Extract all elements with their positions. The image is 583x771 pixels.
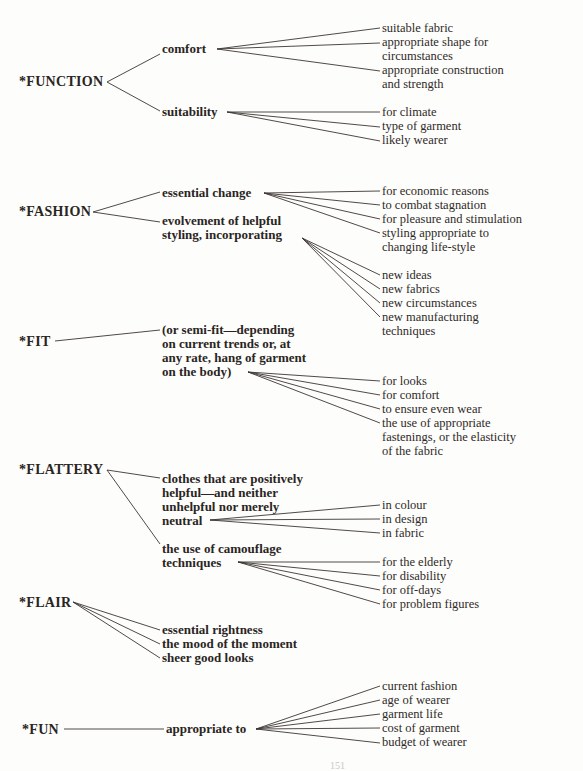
node-fun: *FUN	[22, 722, 59, 738]
leaf-current-fashion: current fashion	[382, 679, 457, 693]
leaf-problem-figures: for problem figures	[382, 597, 479, 611]
node-fit: *FIT	[19, 334, 51, 350]
leaf-disability: for disability	[382, 569, 446, 583]
node-flattery: *FLATTERY	[19, 462, 103, 478]
node-semi-fit-line3: any rate, hang of garment	[162, 351, 306, 365]
node-essential-change: essential change	[162, 186, 251, 200]
node-suitability: suitability	[162, 105, 218, 119]
leaf-even-wear: to ensure even wear	[382, 402, 482, 416]
leaf-suitable-fabric: suitable fabric	[382, 21, 453, 35]
node-camouflage-cont: techniques	[162, 556, 221, 570]
leaf-likely-wearer: likely wearer	[382, 133, 448, 147]
leaf-cost-of-garment: cost of garment	[382, 721, 460, 735]
leaf-fastenings-cont2: of the fabric	[382, 444, 443, 458]
node-evolvement: evolvement of helpful	[162, 214, 281, 228]
leaf-combat-stagnation: to combat stagnation	[382, 198, 486, 212]
leaf-in-fabric: in fabric	[382, 526, 424, 540]
node-clothes-helpful: clothes that are positively	[162, 472, 303, 486]
node-clothes-helpful-line2: helpful—and neither	[162, 486, 278, 500]
node-semi-fit-line2: on current trends or, at	[162, 337, 291, 351]
leaf-appropriate-shape: appropriate shape for	[382, 35, 488, 49]
leaf-garment-life: garment life	[382, 707, 443, 721]
leaf-appropriate-construction: appropriate construction	[382, 63, 504, 77]
node-comfort: comfort	[162, 42, 206, 56]
node-mood-of-moment: the mood of the moment	[162, 637, 297, 651]
leaf-off-days: for off-days	[382, 583, 441, 597]
node-essential-rightness: essential rightness	[162, 623, 263, 637]
node-appropriate-to: appropriate to	[166, 722, 246, 736]
node-camouflage: the use of camouflage	[162, 542, 282, 556]
leaf-new-circumstances: new circumstances	[382, 296, 477, 310]
leaf-appropriate-shape-cont: circumstances	[382, 49, 453, 63]
leaf-styling-appropriate-cont: changing life-style	[382, 240, 475, 254]
leaf-age-of-wearer: age of wearer	[382, 693, 450, 707]
leaf-for-looks: for looks	[382, 374, 427, 388]
leaf-type-of-garment: type of garment	[382, 119, 461, 133]
node-fashion: *FASHION	[19, 204, 91, 220]
node-flair: *FLAIR	[19, 595, 71, 611]
leaf-fastenings-cont: fastenings, or the elasticity	[382, 430, 516, 444]
leaf-new-ideas: new ideas	[382, 268, 432, 282]
leaf-budget-of-wearer: budget of wearer	[382, 735, 467, 749]
page-number: 151	[330, 760, 345, 771]
leaf-pleasure-stimulation: for pleasure and stimulation	[382, 212, 522, 226]
node-semi-fit-line4: on the body)	[162, 365, 231, 379]
leaf-economic-reasons: for economic reasons	[382, 184, 489, 198]
leaf-for-comfort: for comfort	[382, 388, 439, 402]
leaf-in-colour: in colour	[382, 498, 427, 512]
leaf-new-manufacturing: new manufacturing	[382, 310, 479, 324]
node-clothes-helpful-line3: unhelpful nor merely	[162, 500, 279, 514]
node-semi-fit: (or semi-fit—depending	[162, 323, 294, 337]
leaf-elderly: for the elderly	[382, 555, 453, 569]
leaf-for-climate: for climate	[382, 105, 437, 119]
node-function: *FUNCTION	[19, 74, 103, 90]
leaf-in-design: in design	[382, 512, 427, 526]
leaf-fastenings: the use of appropriate	[382, 416, 491, 430]
node-sheer-good-looks: sheer good looks	[162, 651, 254, 665]
node-evolvement-cont: styling, incorporating	[162, 228, 282, 242]
leaf-appropriate-construction-cont: and strength	[382, 77, 443, 91]
leaf-new-manufacturing-cont: techniques	[382, 324, 435, 338]
node-clothes-helpful-line4: neutral	[162, 514, 202, 528]
leaf-styling-appropriate: styling appropriate to	[382, 226, 489, 240]
leaf-new-fabrics: new fabrics	[382, 282, 440, 296]
